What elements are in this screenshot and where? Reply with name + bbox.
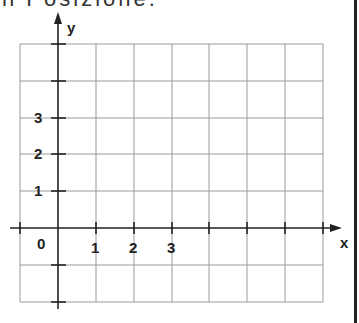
x-axis-label: x [340, 234, 348, 251]
x-tick-label: 1 [91, 239, 99, 256]
y-tick-label: 3 [34, 109, 42, 126]
x-axis-arrow-icon [330, 224, 342, 232]
y-axis-label: y [67, 19, 75, 36]
y-tick-label: 2 [34, 145, 42, 162]
cropped-heading: n Posizione. [2, 0, 158, 12]
x-tick-label: 3 [167, 239, 175, 256]
x-tick-label: 2 [129, 239, 137, 256]
grid-lines [20, 44, 323, 302]
y-tick-label: 1 [34, 182, 42, 199]
axes [10, 22, 330, 309]
y-axis-arrow-icon [54, 12, 62, 24]
origin-label: 0 [37, 235, 45, 252]
coordinate-grid [0, 0, 359, 323]
